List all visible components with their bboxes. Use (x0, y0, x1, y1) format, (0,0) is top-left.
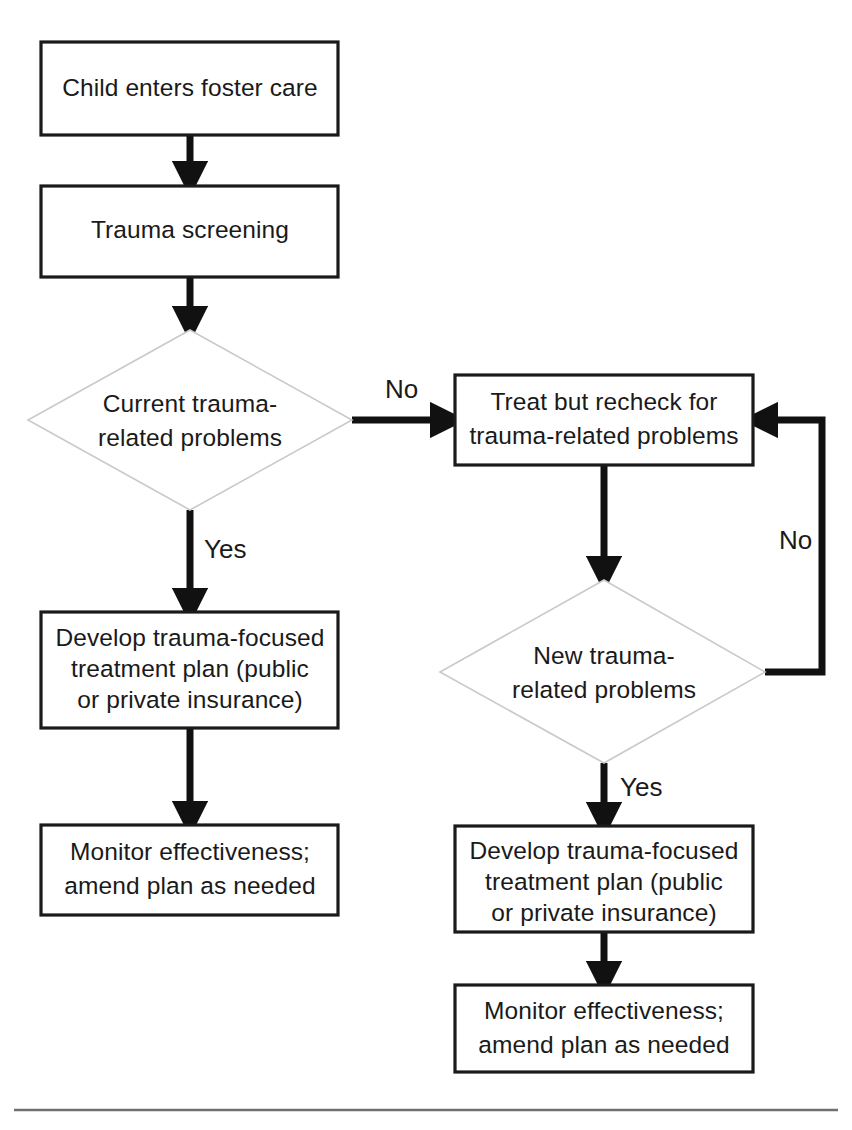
edge-label-new-yes: Yes (620, 772, 662, 802)
node-label-line: New trauma- (533, 642, 674, 669)
node-label-line: or private insurance) (77, 686, 302, 713)
node-new-trauma-related-problems: New trauma- related problems (440, 580, 765, 763)
node-label-line: trauma-related problems (469, 422, 738, 449)
node-develop-plan-left: Develop trauma-focused treatment plan (p… (41, 612, 338, 728)
node-trauma-screening: Trauma screening (41, 186, 338, 277)
edge-label-loop-no: No (779, 525, 812, 555)
node-label-line: amend plan as needed (478, 1031, 729, 1058)
node-label-line: amend plan as needed (64, 872, 315, 899)
node-label-line: Treat but recheck for (490, 388, 717, 415)
edge-label-current-yes: Yes (204, 534, 246, 564)
flowchart-canvas: Child enters foster care Trauma screenin… (0, 0, 852, 1130)
node-diamond-shape (28, 330, 352, 510)
flowchart-svg: Child enters foster care Trauma screenin… (0, 0, 852, 1130)
node-label-line: or private insurance) (491, 899, 716, 926)
node-diamond-shape (440, 580, 765, 763)
node-label-line: Monitor effectiveness; (70, 838, 310, 865)
node-label-line: Current trauma- (103, 390, 277, 417)
node-label-line: treatment plan (public (485, 868, 723, 895)
node-child-enters-foster-care: Child enters foster care (41, 42, 338, 135)
node-develop-plan-right: Develop trauma-focused treatment plan (p… (455, 826, 753, 932)
node-label-line: Develop trauma-focused (469, 837, 738, 864)
edge-label-current-no: No (385, 374, 418, 404)
node-label-line: treatment plan (public (71, 655, 309, 682)
node-label-line: related problems (98, 424, 282, 451)
node-label-line: Trauma screening (91, 216, 289, 243)
node-label-line: related problems (512, 676, 696, 703)
node-label-line: Monitor effectiveness; (484, 997, 724, 1024)
node-current-trauma-related-problems: Current trauma- related problems (28, 330, 352, 510)
node-treat-but-recheck: Treat but recheck for trauma-related pro… (455, 375, 753, 465)
node-monitor-left: Monitor effectiveness; amend plan as nee… (41, 825, 338, 915)
node-label-line: Child enters foster care (62, 74, 318, 101)
node-monitor-right: Monitor effectiveness; amend plan as nee… (455, 985, 753, 1072)
node-label-line: Develop trauma-focused (55, 624, 324, 651)
